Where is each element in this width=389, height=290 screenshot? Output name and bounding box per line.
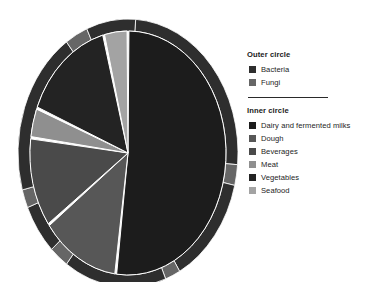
legend-item-label: Dairy and fermented milks [261, 120, 350, 131]
legend-item-label: Seafood [261, 185, 290, 196]
legend-swatch-icon [249, 148, 256, 155]
legend-group-inner: Inner circle Dairy and fermented milksDo… [247, 106, 387, 196]
legend-item: Vegetables [247, 171, 387, 183]
legend-item: Beverages [247, 145, 387, 157]
legend-item: Seafood [247, 184, 387, 196]
legend: Outer circle BacteriaFungi Inner circle … [247, 50, 387, 197]
legend-swatch-icon [249, 187, 256, 194]
legend-item: Dairy and fermented milks [247, 119, 387, 131]
inner-pie-group [30, 31, 226, 275]
legend-swatch-icon [249, 122, 256, 129]
legend-item: Dough [247, 132, 387, 144]
legend-item-label: Dough [261, 133, 284, 144]
figure-root: Outer circle BacteriaFungi Inner circle … [0, 0, 389, 290]
legend-group-outer: Outer circle BacteriaFungi [247, 50, 387, 88]
legend-divider [248, 97, 328, 98]
legend-item-label: Vegetables [261, 172, 299, 183]
legend-item-label: Beverages [261, 146, 298, 157]
legend-item: Meat [247, 158, 387, 170]
legend-list-inner: Dairy and fermented milksDoughBeveragesM… [247, 119, 387, 196]
legend-title-inner: Inner circle [247, 106, 387, 116]
legend-swatch-icon [249, 79, 256, 86]
legend-swatch-icon [249, 66, 256, 73]
legend-item: Bacteria [247, 63, 387, 75]
pie-chart-canvas [14, 8, 238, 282]
legend-item-label: Meat [261, 159, 278, 170]
legend-title-outer: Outer circle [247, 50, 387, 60]
nested-pie-chart [14, 8, 238, 282]
legend-item-label: Bacteria [261, 64, 289, 75]
legend-item: Fungi [247, 76, 387, 88]
legend-swatch-icon [249, 161, 256, 168]
legend-item-label: Fungi [261, 77, 280, 88]
legend-swatch-icon [249, 135, 256, 142]
legend-swatch-icon [249, 174, 256, 181]
legend-list-outer: BacteriaFungi [247, 63, 387, 88]
